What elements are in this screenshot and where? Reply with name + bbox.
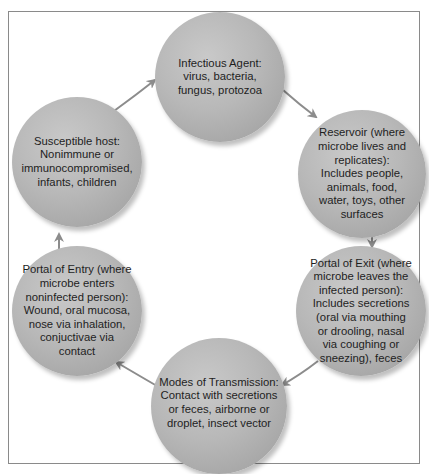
node-portal-of-entry: Portal of Entry (where microbe enters no…	[12, 246, 142, 376]
node-label: Portal of Exit (where microbe leaves the…	[304, 257, 418, 366]
node-modes-of-transmission: Modes of Transmission: Contact with secr…	[151, 338, 287, 474]
node-infectious-agent: Infectious Agent: virus, bacteria, fungu…	[155, 12, 285, 142]
node-label: Modes of Transmission: Contact with secr…	[153, 376, 284, 430]
node-portal-of-exit: Portal of Exit (where microbe leaves the…	[296, 246, 426, 376]
node-label: Infectious Agent: virus, bacteria, fungu…	[172, 57, 268, 98]
node-label: Portal of Entry (where microbe enters no…	[16, 263, 137, 358]
node-label: Reservoir (where microbe lives and repli…	[312, 126, 412, 221]
node-reservoir: Reservoir (where microbe lives and repli…	[298, 110, 426, 238]
node-label: Susceptible host: Nonimmune or immunocom…	[15, 135, 138, 189]
node-susceptible-host: Susceptible host: Nonimmune or immunocom…	[12, 97, 142, 227]
